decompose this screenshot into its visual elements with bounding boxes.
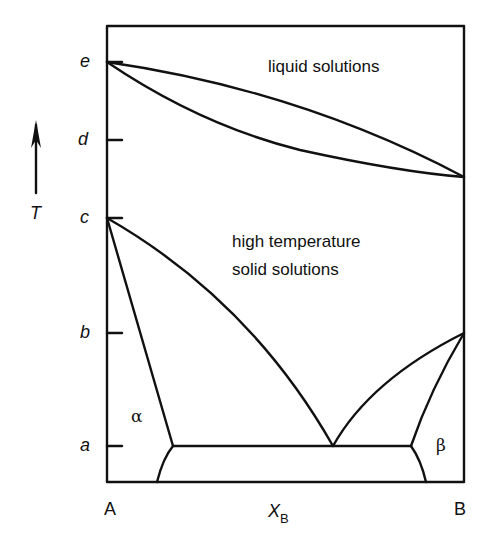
composition-symbol: X — [268, 501, 280, 521]
solidus-curve — [107, 62, 464, 177]
tick-label-a: a — [80, 436, 90, 454]
solid-region-label-line1: high temperature — [232, 231, 361, 252]
tick-label-e: e — [80, 52, 90, 70]
tick-label-b: b — [80, 323, 90, 341]
solid-region-label-line2: solid solutions — [232, 259, 339, 280]
tick-label-d: d — [78, 130, 88, 148]
temperature-axis-label: T — [30, 204, 41, 222]
beta-phase-label: β — [436, 437, 446, 454]
component-b-label: B — [454, 500, 466, 518]
beta-solvus-lower — [411, 446, 426, 482]
liquidus-curve — [107, 62, 464, 177]
composition-axis-label: XB — [268, 502, 289, 525]
composition-subscript: B — [280, 511, 289, 526]
beta-solvus-upper — [411, 333, 464, 446]
component-a-label: A — [104, 500, 116, 518]
right-miscibility-curve — [333, 333, 464, 446]
alpha-solvus-lower — [157, 446, 173, 482]
alpha-phase-label: α — [131, 408, 142, 425]
tick-label-c: c — [80, 208, 89, 226]
liquid-region-label: liquid solutions — [268, 56, 380, 77]
